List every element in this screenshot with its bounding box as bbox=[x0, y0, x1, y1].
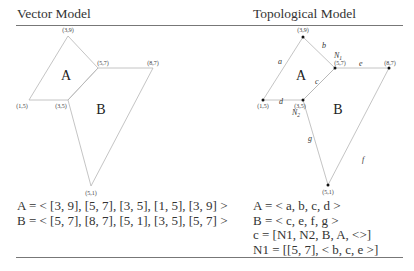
vertex-label-5-7: (5,7) bbox=[334, 60, 346, 67]
equation-b: B = < c, e, f, g > bbox=[253, 214, 378, 229]
vertex-label-3-5: (3,5) bbox=[55, 103, 67, 110]
vertex-label-1-5: (1,5) bbox=[257, 103, 269, 110]
vertex-label-1-5: (1,5) bbox=[16, 103, 28, 110]
vertex-label-8-7: (8,7) bbox=[147, 60, 159, 67]
vertex-label-5-1: (5,1) bbox=[322, 189, 334, 196]
vertex-label-3-9: (3,9) bbox=[297, 27, 309, 34]
vertex-label-8-7: (8,7) bbox=[384, 60, 396, 67]
vertex-label-3-9: (3,9) bbox=[62, 27, 74, 34]
region-label-b: B bbox=[333, 102, 342, 117]
node-label-n1: N1 bbox=[333, 51, 342, 61]
equation-a: A = < [3, 9], [5, 7], [3, 5], [1, 5], [3… bbox=[17, 199, 227, 214]
region-label-a: A bbox=[296, 68, 307, 83]
vertex-label-5-7: (5,7) bbox=[97, 60, 109, 67]
edge-label-c: c bbox=[315, 77, 319, 86]
equation-b: B = < [5, 7], [8, 7], [5, 1], [3, 5], [5… bbox=[17, 214, 227, 229]
edge-label-d: d bbox=[279, 97, 284, 106]
equation-a: A = < a, b, c, d > bbox=[253, 199, 378, 214]
edge-label-f: f bbox=[362, 155, 366, 164]
vertex-label-5-1: (5,1) bbox=[85, 190, 97, 197]
polygon-b-outline bbox=[68, 68, 153, 186]
vector-diagram bbox=[29, 36, 153, 186]
edge-label-g: g bbox=[308, 134, 312, 143]
region-label-b: B bbox=[96, 102, 105, 117]
equation-c: c = [N1, N2, B, A, <>] bbox=[253, 228, 378, 243]
edge-label-b: b bbox=[322, 41, 326, 50]
region-label-a: A bbox=[61, 68, 72, 83]
topological-equations: A = < a, b, c, d > B = < c, e, f, g > c … bbox=[253, 199, 378, 257]
equation-n1: N1 = [[5, 7], < b, c, e >] bbox=[253, 243, 378, 258]
topological-labels: (3,9) (5,7) (8,7) (1,5) (3,5) (5,1) a b … bbox=[257, 27, 396, 196]
vector-equations: A = < [3, 9], [5, 7], [3, 5], [1, 5], [3… bbox=[17, 199, 227, 228]
footer-rule bbox=[16, 257, 403, 258]
edge-label-a: a bbox=[278, 57, 282, 66]
node-label-n2: N2 bbox=[291, 108, 300, 118]
edge-label-e: e bbox=[359, 59, 363, 68]
